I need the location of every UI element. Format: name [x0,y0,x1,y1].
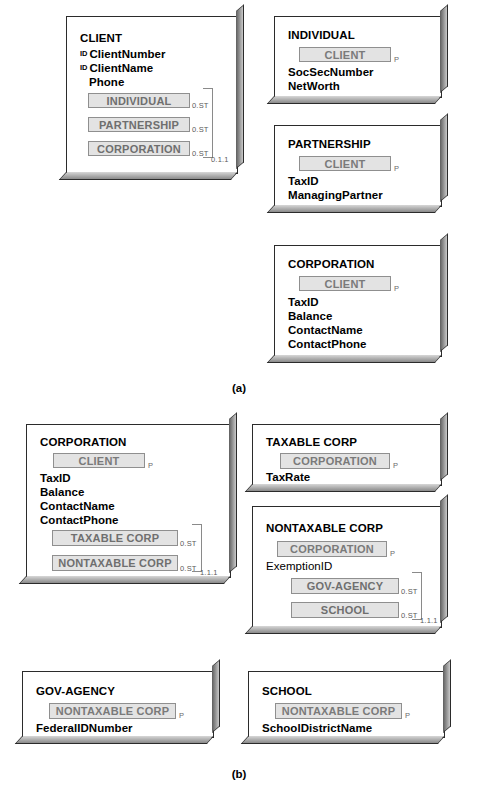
subtype-chip-taxable-corp[interactable]: TAXABLE CORP [52,530,178,546]
subtype-group-bracket-client [203,88,213,158]
partial-marker: P [394,55,399,64]
panel-caption-b: (b) [219,768,259,780]
group-cardinality-client: 0.1.1 [211,155,229,164]
entity-title-client: CLIENT [80,32,122,44]
subtype-group-bracket-nontaxable [412,572,422,620]
attribute-federalidnumber: FederalIDNumber [36,722,133,734]
supertype-chip-client[interactable]: CLIENT [299,156,391,171]
identifier-marker: ID [80,49,88,58]
entity-title-gov-agency: GOV-AGENCY [36,685,115,697]
group-cardinality-nontaxable: 1.1.1 [420,616,438,625]
supertype-chip-corporation[interactable]: CORPORATION [277,541,387,557]
attribute-taxid: TaxID [40,472,71,484]
partial-marker: P [148,461,153,470]
subtype-group-bracket-corporation [192,524,202,572]
entity-title-corporation-b: CORPORATION [40,436,127,448]
attribute-taxrate: TaxRate [266,471,310,483]
identifier-marker: ID [80,63,88,72]
entity-title-taxable-corp: TAXABLE CORP [266,436,357,448]
supertype-chip-nontaxable-corp[interactable]: NONTAXABLE CORP [49,703,176,719]
entity-title-individual: INDIVIDUAL [288,29,355,41]
attribute-socsecnumber: SocSecNumber [288,66,374,78]
attribute-contactname: ContactName [40,500,115,512]
attribute-schooldistrictname: SchoolDistrictName [262,722,372,734]
partial-marker: P [394,164,399,173]
partial-marker: P [394,284,399,293]
partial-marker: P [393,461,398,470]
attribute-exemptionid: ExemptionID [266,560,332,572]
attribute-balance: Balance [288,310,332,322]
subtype-chip-gov-agency[interactable]: GOV-AGENCY [291,578,399,594]
attribute-phone: Phone [89,76,124,88]
panel-caption-a: (a) [219,382,259,394]
attribute-taxid: TaxID [288,175,319,187]
attribute-balance: Balance [40,486,84,498]
entity-title-partnership: PARTNERSHIP [288,138,371,150]
figure-canvas: CLIENT IDClientNumber IDClientName Phone… [0,0,478,800]
supertype-chip-client[interactable]: CLIENT [299,276,391,291]
subtype-chip-nontaxable-corp[interactable]: NONTAXABLE CORP [52,555,178,571]
attribute-label: ClientName [90,62,154,74]
attribute-label: ClientNumber [90,48,166,60]
supertype-chip-client[interactable]: CLIENT [53,453,145,468]
attribute-taxid: TaxID [288,296,319,308]
subtype-chip-corporation[interactable]: CORPORATION [88,141,190,156]
attribute-networth: NetWorth [288,80,340,92]
subtype-chip-partnership[interactable]: PARTNERSHIP [88,117,190,132]
supertype-chip-client[interactable]: CLIENT [299,47,391,62]
attribute-clientname: IDClientName [80,62,153,74]
subtype-chip-individual[interactable]: INDIVIDUAL [88,93,190,108]
supertype-chip-corporation[interactable]: CORPORATION [280,453,390,469]
partial-marker: P [390,549,395,558]
attribute-contactphone: ContactPhone [40,514,119,526]
attribute-contactname: ContactName [288,324,363,336]
group-cardinality-corporation: 1.1.1 [200,568,218,577]
partial-marker: P [405,711,410,720]
entity-title-nontaxable-corp: NONTAXABLE CORP [266,522,383,534]
attribute-contactphone: ContactPhone [288,338,367,350]
entity-title-corporation: CORPORATION [288,258,375,270]
attribute-managingpartner: ManagingPartner [288,189,383,201]
subtype-chip-school[interactable]: SCHOOL [291,602,399,618]
entity-title-school: SCHOOL [262,685,312,697]
supertype-chip-nontaxable-corp[interactable]: NONTAXABLE CORP [275,703,402,719]
partial-marker: P [179,711,184,720]
attribute-clientnumber: IDClientNumber [80,48,166,60]
